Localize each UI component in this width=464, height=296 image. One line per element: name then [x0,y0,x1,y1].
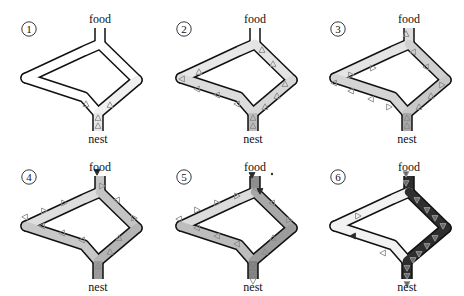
food-label: food [244,12,266,26]
food-label: food [398,160,420,174]
ant-icon [380,250,386,256]
trail-pheromone-fill [26,176,137,279]
nest-label: nest [243,132,263,146]
ants [350,172,446,288]
ant-trail-diagram: foodnest1foodnest2foodnest3foodnest4food… [0,0,464,296]
trail-segment-right-lower [253,80,292,113]
trail-pheromone-fill [335,176,446,279]
trail-segment-right-lower [407,80,446,113]
panel-number: 6 [331,170,345,184]
trail-segment-left-upper [181,44,255,78]
trail-segment-right-lower [253,228,292,261]
panel-2: foodnest2 [177,12,292,146]
food-label: food [89,12,111,26]
panel-1: foodnest1 [22,12,137,146]
panel-number: 3 [331,22,345,36]
svg-text:2: 2 [181,23,187,35]
trail-segment-left-upper [181,192,255,226]
trail-pheromone-fill [181,28,292,131]
svg-text:1: 1 [26,23,32,35]
ant-icon [22,214,28,220]
panel-number: 2 [177,22,191,36]
food-label: food [398,12,420,26]
ant-icon [387,104,393,110]
trail-segment-right-lower [98,80,137,113]
nest-label: nest [88,280,108,294]
nest-label: nest [397,132,417,146]
trail-segment-left-upper [26,192,100,226]
panel-6: foodnest6 [331,160,446,294]
panel-5: foodnest5 [176,160,292,294]
nest-label: nest [397,280,417,294]
food-label: food [244,160,266,174]
svg-text:6: 6 [335,171,341,183]
trail-segment-left-upper [26,44,100,78]
trail-pheromone-fill [181,176,292,279]
trail-pheromone-fill [335,28,446,131]
svg-text:4: 4 [26,171,32,183]
trail-segment-right-upper [100,44,137,80]
trail-pheromone-fill [26,28,137,131]
svg-text:3: 3 [335,23,341,35]
svg-text:5: 5 [181,171,187,183]
panel-number: 5 [177,170,191,184]
panel-4: foodnest4 [22,160,137,294]
stray-dot [271,173,273,175]
food-label: food [89,160,111,174]
ant-icon [368,96,374,102]
nest-label: nest [243,280,263,294]
panel-3: foodnest3 [331,12,446,146]
trail-segment-right-lower [98,228,137,261]
panel-number: 4 [22,170,36,184]
nest-label: nest [88,132,108,146]
panel-number: 1 [22,22,36,36]
trail-segment-left-upper [335,192,409,226]
trail-segment-left-upper [335,44,409,78]
